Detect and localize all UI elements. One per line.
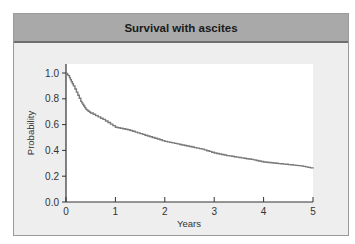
x-tick-label: 2 (162, 206, 168, 217)
x-tick-label: 1 (113, 206, 119, 217)
y-tick-label: 0.8 (45, 93, 59, 104)
y-tick-label: 0.0 (45, 197, 59, 208)
survival-chart: 0.00.20.40.60.81.0012345 Years Probabili… (0, 0, 355, 244)
x-axis-title: Years (177, 218, 201, 229)
plot-area (66, 64, 313, 202)
y-axis-title: Probability (25, 111, 36, 156)
x-tick-label: 5 (310, 206, 316, 217)
x-tick-label: 3 (211, 206, 217, 217)
x-tick-label: 0 (63, 206, 69, 217)
y-tick-label: 0.4 (45, 145, 59, 156)
x-tick-label: 4 (261, 206, 267, 217)
y-tick-label: 1.0 (45, 68, 59, 79)
y-tick-label: 0.6 (45, 119, 59, 130)
y-tick-label: 0.2 (45, 171, 59, 182)
